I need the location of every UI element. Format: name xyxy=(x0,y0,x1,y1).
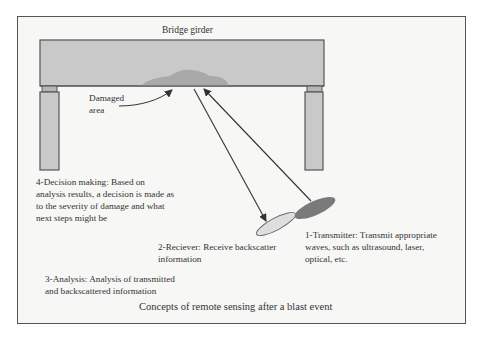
step1-line1: 1-Transmitter: Transmit appropriate xyxy=(305,229,437,241)
receiver-dish xyxy=(254,208,298,239)
transmitter-dish xyxy=(292,193,338,224)
left-column xyxy=(40,92,59,170)
left-bearing xyxy=(42,86,57,92)
step4-line2: analysis results, a decision is made as xyxy=(36,188,174,200)
step3-line2: and backscattered information xyxy=(45,285,156,297)
step4-line3: to the severity of damage and what xyxy=(36,200,165,212)
backscatter-arrow xyxy=(194,89,266,221)
damaged-label-line1: Damaged xyxy=(89,92,124,104)
step2-line1: 2-Reciever: Receive backscatter xyxy=(158,241,276,253)
step3-line1: 3-Analysis: Analysis of transmitted xyxy=(45,273,175,285)
step4-line1: 4-Decision making: Based on xyxy=(36,176,145,188)
step1-line2: waves, such as ultrasound, laser, xyxy=(305,241,424,253)
figure-caption: Concepts of remote sensing after a blast… xyxy=(139,301,332,312)
transmit-arrow xyxy=(204,89,311,201)
step1-line3: optical, etc. xyxy=(305,253,348,265)
right-bearing xyxy=(307,86,322,92)
step4-line4: next steps might be xyxy=(36,212,107,224)
step2-line2: information xyxy=(158,253,201,265)
damaged-label-line2: area xyxy=(89,104,104,116)
damaged-area-leader xyxy=(119,90,172,106)
girder-label: Bridge girder xyxy=(162,24,213,36)
right-column xyxy=(305,92,323,170)
